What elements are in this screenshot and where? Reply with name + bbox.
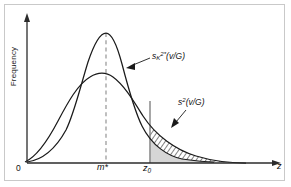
narrow-curve-label: sK2*(v/G)	[152, 50, 185, 61]
narrow-label-argument: (v/G)	[166, 51, 185, 61]
broad-label-argument: (v/G)	[186, 97, 205, 107]
narrow-curve-leader-line	[133, 58, 150, 65]
mode-symbol: m	[97, 162, 105, 172]
origin-tick-label: 0	[16, 163, 21, 173]
mode-star: *	[105, 162, 109, 172]
mode-tick-label: m*	[97, 162, 108, 172]
broad-distribution-curve	[25, 73, 246, 163]
broad-curve-label: s2(v/G)	[178, 96, 205, 107]
plot-canvas	[0, 0, 291, 187]
x-axis-label: z	[277, 161, 282, 171]
distribution-figure: Frequency 0 m* z0 z sK2*(v/G) s2(v/G)	[0, 0, 291, 187]
hatched-band-leader-line	[176, 110, 186, 122]
narrow-curve-arrow-icon	[126, 63, 135, 70]
threshold-tick-label: z0	[143, 163, 151, 174]
threshold-subscript: 0	[148, 167, 152, 174]
y-axis-label: Frequency	[9, 32, 18, 102]
y-axis-arrow-icon	[24, 13, 30, 22]
